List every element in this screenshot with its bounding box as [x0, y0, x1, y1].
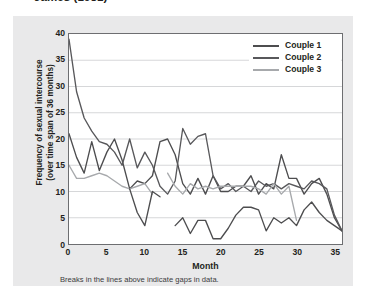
figure-panel: Frequency of sexual intercourse (over ti… [13, 16, 353, 286]
legend-line-swatch-icon [253, 57, 279, 59]
x-tick-label: 10 [132, 248, 156, 257]
series-line-couple-3 [168, 173, 297, 220]
x-tick-label: 20 [209, 248, 233, 257]
y-tick-label: 10 [43, 188, 65, 197]
y-axis-tick-labels: 0510152025303540 [37, 33, 65, 245]
series-line-couple-1-low-segment [175, 202, 342, 239]
source-caption: James (1981) [34, 0, 107, 3]
series-line-couple-3 [69, 165, 152, 194]
legend-item-label: Couple 2 [285, 53, 321, 62]
legend-item-label: Couple 3 [285, 65, 321, 74]
legend-item-1[interactable]: Couple 1 [249, 40, 341, 51]
x-axis-tick-labels: 05101520253035 [68, 248, 343, 262]
legend: Couple 1Couple 2Couple 3 [249, 36, 341, 79]
legend-item-label: Couple 1 [285, 41, 321, 50]
x-tick-label: 30 [285, 248, 309, 257]
figure-note: Breaks in the lines above indicate gaps … [60, 275, 219, 284]
x-tick-label: 35 [323, 248, 347, 257]
x-tick-label: 5 [94, 248, 118, 257]
y-tick-label: 35 [43, 55, 65, 64]
legend-item-2[interactable]: Couple 2 [249, 52, 341, 63]
legend-item-3[interactable]: Couple 3 [249, 64, 341, 75]
legend-line-swatch-icon [253, 69, 279, 71]
y-tick-label: 30 [43, 82, 65, 91]
x-tick-label: 0 [56, 248, 80, 257]
x-tick-label: 25 [247, 248, 271, 257]
legend-line-swatch-icon [253, 45, 279, 47]
x-axis-title: Month [68, 261, 343, 271]
y-tick-label: 40 [43, 29, 65, 38]
series-line-couple-1-low-segment [130, 189, 160, 226]
y-tick-label: 15 [43, 161, 65, 170]
y-tick-label: 5 [43, 214, 65, 223]
y-tick-label: 25 [43, 108, 65, 117]
x-tick-label: 15 [171, 248, 195, 257]
y-tick-label: 20 [43, 135, 65, 144]
